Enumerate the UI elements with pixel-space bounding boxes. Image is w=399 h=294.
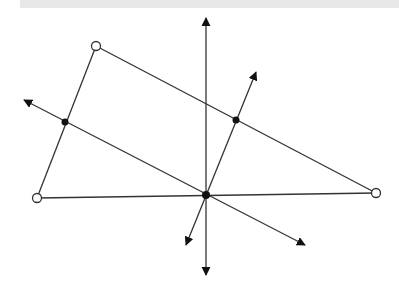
midpoint-M_AB xyxy=(62,119,69,126)
vertex-A xyxy=(92,42,101,51)
vertex-C xyxy=(372,189,381,198)
midpoint-M_AC xyxy=(233,117,240,124)
circumcenter-point xyxy=(202,191,210,199)
triangle-circumcenter-diagram xyxy=(0,0,399,294)
bisector-AC-line xyxy=(186,72,256,245)
vertex-B xyxy=(33,194,42,203)
perpendicular-bisectors xyxy=(24,18,305,275)
